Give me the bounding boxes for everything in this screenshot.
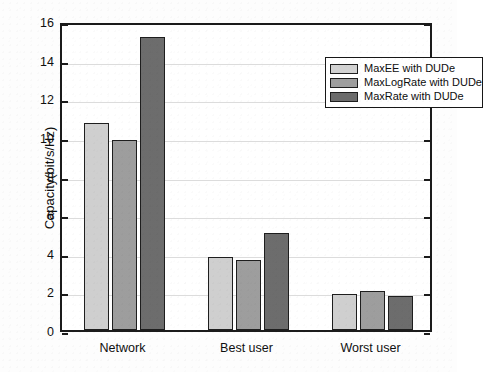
bar-best-user-series-1 xyxy=(236,260,261,330)
bar-worst-user-series-1 xyxy=(360,291,385,330)
y-tick-mark xyxy=(424,24,430,26)
legend-swatch-icon xyxy=(330,92,358,102)
bar-network-series-2 xyxy=(140,37,165,330)
y-tick-mark xyxy=(62,294,68,296)
y-tick-mark xyxy=(424,333,430,335)
legend-swatch-icon xyxy=(330,78,358,88)
y-tick-mark xyxy=(424,179,430,181)
x-tick-label-network: Network xyxy=(63,342,183,355)
y-tick-label: 14 xyxy=(14,56,54,69)
legend-label: MaxEE with DUDe xyxy=(364,63,455,74)
y-tick-label: 4 xyxy=(14,249,54,262)
bar-network-series-0 xyxy=(84,123,109,330)
legend-item-1[interactable]: MaxLogRate with DUDe xyxy=(330,76,478,89)
y-tick-mark xyxy=(62,140,68,142)
bar-best-user-series-0 xyxy=(208,257,233,330)
y-tick-mark xyxy=(62,179,68,181)
legend-item-2[interactable]: MaxRate with DUDe xyxy=(330,90,478,103)
y-tick-label: 2 xyxy=(14,287,54,300)
y-tick-label: 16 xyxy=(14,17,54,30)
y-tick-mark xyxy=(424,140,430,142)
bar-worst-user-series-0 xyxy=(332,294,357,330)
y-tick-mark xyxy=(424,217,430,219)
plot-area: Capacity(bit/s/Hz) MaxEE with DUDeMaxLog… xyxy=(60,23,432,332)
chart-legend[interactable]: MaxEE with DUDeMaxLogRate with DUDeMaxRa… xyxy=(325,57,483,108)
y-tick-mark xyxy=(62,24,68,26)
y-tick-mark xyxy=(424,256,430,258)
bar-network-series-1 xyxy=(112,140,137,330)
bar-worst-user-series-2 xyxy=(388,296,413,330)
legend-label: MaxLogRate with DUDe xyxy=(364,77,482,88)
y-axis-title: Capacity(bit/s/Hz) xyxy=(42,126,57,229)
legend-item-0[interactable]: MaxEE with DUDe xyxy=(330,62,478,75)
y-tick-mark xyxy=(62,333,68,335)
y-tick-label: 0 xyxy=(14,326,54,339)
legend-label: MaxRate with DUDe xyxy=(364,91,464,102)
y-tick-label: 12 xyxy=(14,94,54,107)
y-tick-mark xyxy=(62,63,68,65)
bar-best-user-series-2 xyxy=(264,233,289,330)
y-tick-mark xyxy=(62,256,68,258)
y-tick-mark xyxy=(424,294,430,296)
y-tick-mark xyxy=(62,101,68,103)
y-tick-mark xyxy=(62,217,68,219)
x-tick-label-best-user: Best user xyxy=(187,342,307,355)
legend-swatch-icon xyxy=(330,64,358,74)
x-tick-label-worst-user: Worst user xyxy=(311,342,431,355)
